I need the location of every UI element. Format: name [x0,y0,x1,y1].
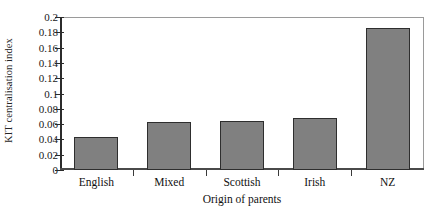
y-axis-tick-mark [55,124,64,125]
bar-chart: KIT centralisation index 00.020.040.060.… [0,0,437,212]
y-axis-tick-mark [55,109,64,110]
y-axis-tick-mark [55,155,64,156]
x-axis-title: Origin of parents [60,193,424,205]
x-axis-tick-label: NZ [380,176,395,188]
y-axis-tick-mark [55,139,64,140]
x-axis-tick-label: English [79,176,114,188]
x-axis-tick-label: Scottish [223,176,260,188]
y-axis-tick-mark [55,32,64,33]
bar-scottish [220,121,264,170]
bar-mixed [147,122,191,170]
x-axis-tick-mark [351,170,352,176]
x-axis-tick-label: Irish [304,176,325,188]
bar-irish [293,118,337,170]
bar-english [74,137,118,170]
y-axis-tick-mark [55,78,64,79]
y-axis-tick-labels: 00.020.040.060.080.10.120.140.160.180.2 [14,17,58,170]
x-axis-tick-mark [206,170,207,176]
x-axis-tick-mark [278,170,279,176]
y-axis-tick-mark [55,48,64,49]
y-axis-tick-mark [55,63,64,64]
y-axis-tick-mark [55,17,64,18]
bar-nz [366,28,410,170]
y-axis-title-text: KIT centralisation index [3,38,14,143]
y-axis-tick-mark [55,94,64,95]
x-axis-tick-mark [133,170,134,176]
y-axis-tick-mark [55,170,64,171]
x-axis-tick-label: Mixed [154,176,184,188]
